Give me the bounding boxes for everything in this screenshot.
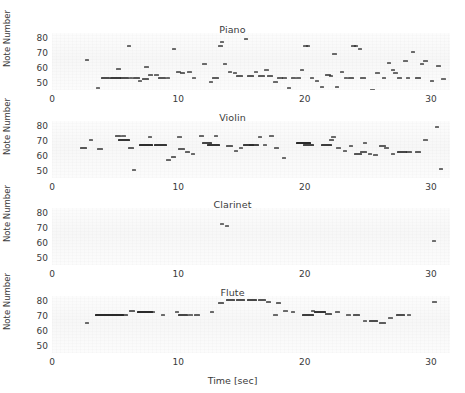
note-mark bbox=[89, 139, 93, 141]
note-mark bbox=[332, 53, 336, 55]
x-tick-label: 0 bbox=[49, 357, 55, 367]
note-mark bbox=[439, 168, 443, 170]
note-mark bbox=[343, 150, 347, 152]
note-mark bbox=[397, 77, 402, 79]
note-mark bbox=[315, 80, 319, 82]
x-tick-label: 20 bbox=[299, 182, 310, 192]
note-mark bbox=[393, 72, 397, 74]
note-mark bbox=[244, 38, 248, 40]
note-mark bbox=[306, 45, 310, 47]
x-tick-label: 0 bbox=[49, 269, 55, 279]
note-mark bbox=[96, 87, 100, 89]
note-mark bbox=[116, 68, 120, 70]
note-mark bbox=[329, 75, 333, 77]
note-mark bbox=[264, 69, 268, 71]
note-mark bbox=[101, 77, 110, 79]
plot-area-clarinet bbox=[52, 208, 450, 265]
note-mark bbox=[407, 314, 411, 316]
x-tick-label: 0 bbox=[49, 182, 55, 192]
y-ticks-flute: 50607080 bbox=[18, 296, 48, 353]
note-mark bbox=[154, 74, 158, 76]
note-mark bbox=[346, 314, 350, 316]
x-tick-label: 0 bbox=[49, 94, 55, 104]
note-mark bbox=[287, 87, 291, 89]
note-mark bbox=[360, 151, 367, 153]
x-tick-label: 20 bbox=[299, 357, 310, 367]
note-mark bbox=[85, 322, 89, 324]
x-tick-label: 30 bbox=[425, 94, 436, 104]
background-noise bbox=[52, 121, 450, 178]
note-mark bbox=[274, 147, 279, 149]
note-mark bbox=[192, 77, 196, 79]
note-mark bbox=[214, 135, 218, 137]
note-mark bbox=[212, 77, 218, 79]
note-mark bbox=[258, 136, 262, 138]
note-mark bbox=[348, 77, 354, 79]
note-mark bbox=[226, 145, 233, 147]
note-mark bbox=[247, 75, 255, 77]
note-mark bbox=[127, 45, 131, 47]
x-ticks-violin: 0102030 bbox=[52, 182, 450, 196]
y-tick-label: 80 bbox=[22, 209, 48, 218]
note-mark bbox=[158, 77, 166, 79]
note-mark bbox=[329, 139, 335, 141]
note-mark bbox=[175, 311, 179, 313]
x-tick-label: 30 bbox=[425, 182, 436, 192]
note-mark bbox=[191, 153, 195, 155]
note-mark bbox=[171, 156, 177, 158]
note-mark bbox=[411, 51, 415, 53]
y-tick-label: 50 bbox=[22, 79, 48, 88]
note-mark bbox=[202, 63, 206, 65]
note-mark bbox=[258, 299, 266, 301]
note-mark bbox=[132, 169, 136, 171]
note-mark bbox=[225, 225, 229, 227]
note-mark bbox=[368, 153, 372, 155]
note-mark bbox=[254, 71, 258, 73]
note-mark bbox=[166, 159, 171, 161]
note-mark bbox=[177, 136, 181, 138]
note-mark bbox=[258, 75, 265, 77]
note-mark bbox=[291, 311, 295, 313]
y-tick-label: 80 bbox=[22, 122, 48, 131]
note-mark bbox=[406, 77, 410, 79]
x-tick-label: 10 bbox=[173, 182, 184, 192]
note-mark bbox=[180, 72, 186, 74]
note-mark bbox=[349, 145, 353, 147]
note-mark bbox=[234, 150, 238, 152]
note-mark bbox=[239, 147, 243, 149]
note-mark bbox=[233, 72, 237, 74]
note-mark bbox=[384, 147, 388, 149]
note-mark bbox=[118, 139, 131, 141]
plot-area-piano bbox=[52, 33, 450, 90]
note-mark bbox=[340, 71, 344, 73]
note-mark bbox=[144, 66, 148, 68]
note-mark bbox=[266, 301, 271, 303]
note-mark bbox=[209, 81, 213, 83]
note-mark bbox=[300, 69, 304, 71]
x-tick-label: 10 bbox=[173, 269, 184, 279]
note-mark bbox=[151, 311, 155, 313]
note-mark bbox=[432, 301, 436, 303]
note-mark bbox=[273, 314, 277, 316]
note-mark bbox=[207, 144, 220, 146]
note-mark bbox=[178, 148, 184, 150]
note-mark bbox=[335, 311, 340, 313]
note-mark bbox=[218, 45, 223, 47]
note-mark bbox=[379, 322, 385, 324]
note-mark bbox=[388, 317, 392, 319]
note-mark bbox=[267, 75, 273, 77]
note-mark bbox=[178, 314, 188, 316]
x-tick-label: 10 bbox=[173, 94, 184, 104]
note-mark bbox=[282, 157, 286, 159]
note-mark bbox=[139, 144, 153, 146]
note-mark bbox=[387, 62, 391, 64]
note-mark bbox=[325, 313, 333, 315]
note-mark bbox=[133, 77, 141, 79]
x-tick-label: 10 bbox=[173, 357, 184, 367]
note-mark bbox=[154, 144, 167, 146]
y-tick-label: 70 bbox=[22, 312, 48, 321]
y-tick-label: 60 bbox=[22, 152, 48, 161]
x-ticks-piano: 0102030 bbox=[52, 94, 450, 108]
y-tick-label: 70 bbox=[22, 49, 48, 58]
note-mark bbox=[121, 314, 127, 316]
